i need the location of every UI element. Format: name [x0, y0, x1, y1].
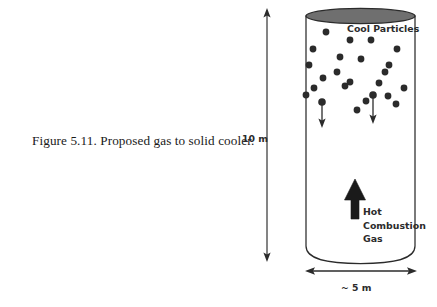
cylinder-top-cap — [306, 8, 415, 23]
particle — [368, 37, 375, 44]
gas-to-solid-cooler-diagram — [0, 0, 437, 307]
particle — [310, 46, 317, 53]
particle — [306, 62, 313, 69]
width-dimension-line — [305, 267, 417, 275]
particle — [337, 54, 344, 61]
particle — [401, 85, 408, 92]
particle — [303, 92, 310, 99]
particle — [342, 83, 349, 90]
particle — [354, 107, 361, 114]
particle — [311, 85, 318, 92]
particle — [363, 98, 370, 105]
height-dimension-label: 10 m — [242, 133, 268, 144]
particle — [376, 80, 383, 87]
width-dimension-label: ~ 5 m — [341, 282, 371, 293]
figure-caption: Figure 5.11. Proposed gas to solid coole… — [32, 133, 254, 149]
particle — [347, 37, 354, 44]
hot-gas-label-line-1: Hot — [363, 205, 426, 219]
particle — [386, 62, 393, 69]
cool-particles-label: Cool Particles — [347, 23, 419, 34]
hot-gas-label-line-2: Combustion — [363, 219, 426, 233]
particle — [382, 69, 389, 76]
particle — [394, 46, 401, 53]
hot-combustion-gas-label: Hot Combustion Gas — [363, 205, 426, 246]
particle — [393, 101, 400, 108]
figure-container: Figure 5.11. Proposed gas to solid coole… — [0, 0, 437, 307]
particle — [334, 69, 341, 76]
particle — [385, 93, 392, 100]
particle — [320, 75, 327, 82]
particle — [323, 29, 330, 36]
particle — [358, 56, 365, 63]
hot-gas-label-line-3: Gas — [363, 232, 426, 246]
